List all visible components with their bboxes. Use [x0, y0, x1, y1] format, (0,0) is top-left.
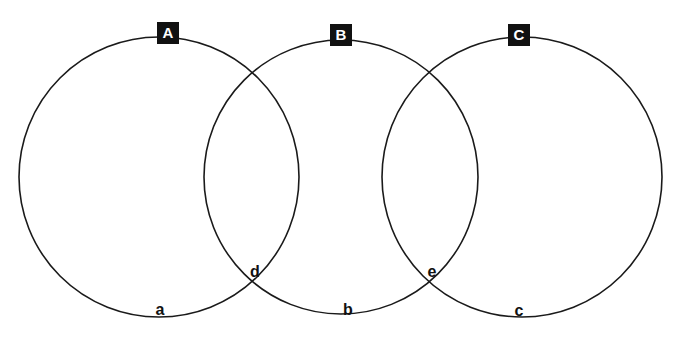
region-label-d: d	[250, 264, 260, 280]
region-label-c: c	[515, 303, 524, 319]
set-badge-b: B	[330, 24, 352, 46]
set-badge-a: A	[157, 22, 179, 44]
diagram-background	[0, 0, 682, 344]
region-label-a: a	[156, 302, 165, 318]
venn-diagram: A B C a d b e c	[0, 0, 682, 344]
venn-diagram-canvas	[0, 0, 682, 344]
region-label-b: b	[343, 302, 353, 318]
set-badge-c: C	[508, 24, 530, 46]
region-label-e: e	[428, 264, 437, 280]
